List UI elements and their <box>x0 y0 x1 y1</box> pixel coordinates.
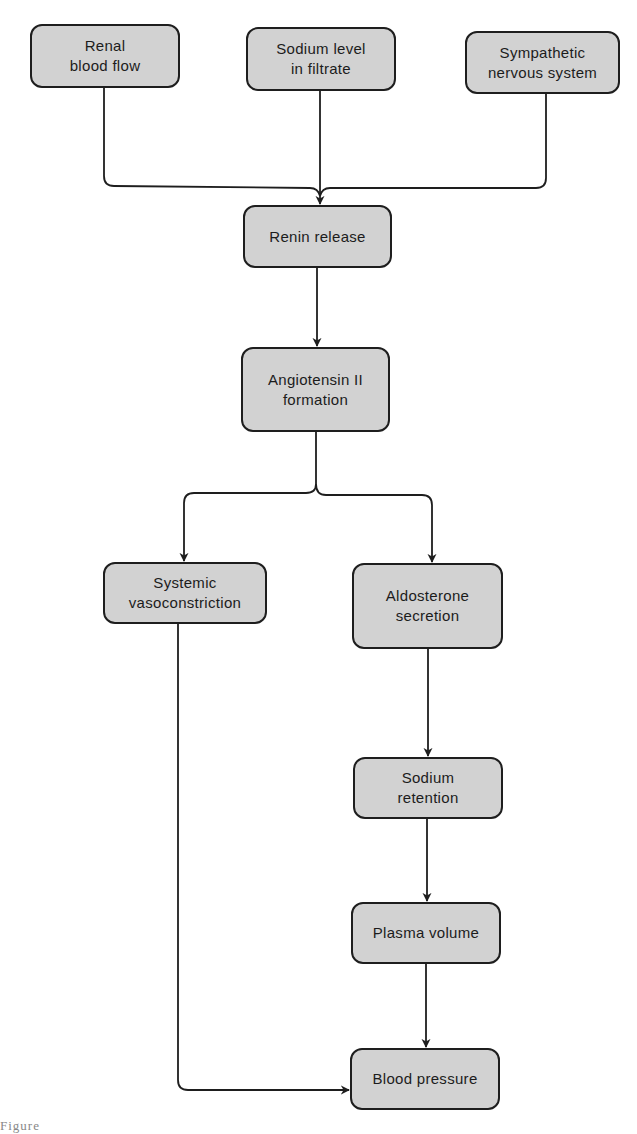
edge-angiotensin-to-aldosterone <box>316 484 432 562</box>
node-aldosterone-secretion: Aldosterone secretion <box>352 563 503 649</box>
node-sodium-level-in-filtrate: Sodium level in filtrate <box>246 27 396 91</box>
node-sodium-retention: Sodium retention <box>353 757 503 819</box>
node-label: Systemic vasoconstriction <box>129 573 241 613</box>
node-angiotensin-ii-formation: Angiotensin II formation <box>241 347 390 432</box>
node-label: Aldosterone secretion <box>386 586 469 626</box>
node-blood-pressure: Blood pressure <box>350 1048 500 1110</box>
node-sympathetic-nervous-system: Sympathetic nervous system <box>465 31 620 94</box>
node-renal-blood-flow: Renal blood flow <box>30 24 180 88</box>
node-label: Blood pressure <box>372 1069 477 1089</box>
node-label: Plasma volume <box>373 923 479 943</box>
edge-sympathetic-to-junction <box>320 94 546 196</box>
node-label: Sympathetic nervous system <box>488 43 597 83</box>
node-renin-release: Renin release <box>243 205 392 268</box>
node-label: Renal blood flow <box>70 36 141 76</box>
edge-renal-to-junction <box>104 88 320 196</box>
node-label: Sodium level in filtrate <box>276 39 365 79</box>
edge-angiotensin-to-systemic <box>184 432 316 561</box>
node-label: Renin release <box>269 227 365 247</box>
figure-caption-fragment: Figure <box>0 1118 40 1134</box>
node-label: Sodium retention <box>397 768 458 808</box>
node-systemic-vasoconstriction: Systemic vasoconstriction <box>103 562 267 624</box>
edge-systemic-to-blood-pressure <box>178 624 349 1090</box>
node-label: Angiotensin II formation <box>268 370 363 410</box>
node-plasma-volume: Plasma volume <box>351 902 501 964</box>
